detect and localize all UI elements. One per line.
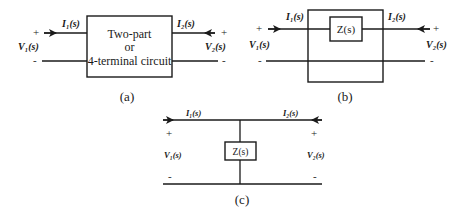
- voltage-v2-label: V₂(s): [426, 39, 447, 51]
- box-label-line-3: 4-terminal circuit: [88, 54, 172, 68]
- plus-in: +: [33, 26, 39, 38]
- plus-in: +: [256, 22, 262, 34]
- caption-a: (a): [120, 89, 134, 104]
- plus-in: +: [166, 127, 172, 139]
- plus-out: +: [433, 22, 439, 34]
- impedance-label: Z(s): [337, 23, 356, 36]
- panel-a: Two-part or 4-terminal circuit + - + - I…: [18, 16, 227, 104]
- box-label-line-2: or: [125, 40, 135, 54]
- caption-c: (c): [235, 192, 249, 207]
- current-i1-label: I₁(s): [185, 108, 201, 118]
- minus-out: -: [430, 54, 434, 66]
- two-port-diagram: Two-part or 4-terminal circuit + - + - I…: [0, 0, 460, 214]
- voltage-v2-label: V₂(s): [205, 41, 226, 53]
- impedance-label: Z(s): [233, 147, 249, 158]
- current-i2-label: I₂(s): [282, 108, 298, 118]
- minus-in: -: [168, 170, 172, 182]
- minus-out: -: [222, 54, 226, 66]
- minus-in: -: [258, 54, 262, 66]
- panel-c: Z(s) + - + - I₁(s) I₂(s) V₁(s) V₂(s) (c): [163, 108, 325, 207]
- voltage-v1-label: V₁(s): [164, 150, 182, 160]
- current-i1-label: I₁(s): [61, 18, 80, 30]
- voltage-v2-label: V₂(s): [307, 150, 325, 160]
- voltage-v1-label: V₁(s): [249, 39, 270, 51]
- minus-out: -: [313, 170, 317, 182]
- current-i1-label: I₁(s): [285, 11, 304, 23]
- voltage-v1-label: V₁(s): [18, 41, 39, 53]
- current-i2-label: I₂(s): [387, 11, 406, 23]
- box-label-line-1: Two-part: [108, 27, 152, 41]
- minus-in: -: [33, 54, 37, 66]
- plus-out: +: [311, 127, 317, 139]
- panel-b: Z(s) + - + - I₁(s) I₂(s) V₁(s) V₂(s) (b): [249, 10, 447, 104]
- caption-b: (b): [337, 89, 352, 104]
- current-i2-label: I₂(s): [176, 18, 195, 30]
- plus-out: +: [221, 26, 227, 38]
